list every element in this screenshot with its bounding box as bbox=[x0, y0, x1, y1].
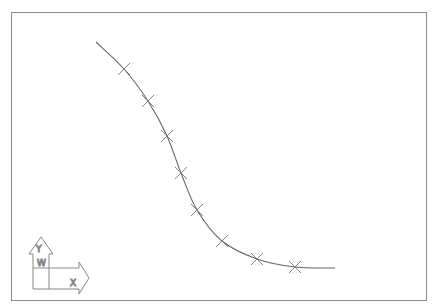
ucs-x-label: X bbox=[70, 278, 76, 288]
ucs-icon: Y W X bbox=[29, 237, 89, 294]
drawing-canvas: Y W X bbox=[0, 0, 434, 308]
spline-curve[interactable] bbox=[96, 42, 335, 268]
ucs-w-label: W bbox=[37, 258, 46, 268]
spline-fit-points bbox=[118, 63, 301, 273]
ucs-y-label: Y bbox=[35, 244, 42, 254]
